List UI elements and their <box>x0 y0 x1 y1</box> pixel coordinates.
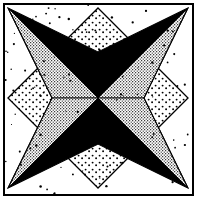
speckle-dot <box>99 75 101 77</box>
speckle-dot <box>96 81 97 82</box>
speckle-dot <box>147 163 148 164</box>
speckle-dot <box>68 18 70 20</box>
speckle-dot <box>145 46 147 48</box>
speckle-dot <box>184 84 186 86</box>
speckle-dot <box>126 64 128 66</box>
speckle-dot <box>184 144 186 146</box>
speckle-dot <box>31 89 33 91</box>
speckle-dot <box>111 16 113 18</box>
speckle-dot <box>46 189 48 191</box>
speckle-dot <box>174 147 176 149</box>
speckle-dot <box>98 49 100 51</box>
speckle-dot <box>93 112 95 114</box>
speckle-dot <box>49 22 51 24</box>
speckle-dot <box>142 32 144 34</box>
speckle-dot <box>50 153 52 155</box>
speckle-dot <box>54 56 55 57</box>
star-quilt-illustration <box>0 0 197 200</box>
speckle-dot <box>138 39 140 41</box>
speckle-dot <box>68 73 70 75</box>
speckle-dot <box>65 110 66 111</box>
speckle-dot <box>53 193 55 195</box>
speckle-dot <box>173 139 175 141</box>
speckle-dot <box>116 99 118 101</box>
speckle-dot <box>152 96 153 97</box>
speckle-dot <box>29 18 31 20</box>
speckle-dot <box>78 45 80 47</box>
speckle-dot <box>138 67 139 68</box>
speckle-dot <box>39 134 41 136</box>
speckle-dot <box>167 29 169 31</box>
speckle-dot <box>145 10 147 12</box>
speckle-dot <box>173 16 175 18</box>
speckle-dot <box>121 162 123 164</box>
speckle-dot <box>155 39 156 40</box>
speckle-dot <box>69 80 71 82</box>
speckle-dot <box>122 76 124 78</box>
speckle-dot <box>48 7 50 9</box>
speckle-dot <box>24 70 26 72</box>
speckle-dot <box>19 151 21 153</box>
speckle-dot <box>79 137 81 139</box>
figure-root <box>0 0 197 200</box>
speckle-dot <box>54 8 55 9</box>
speckle-dot <box>82 170 83 171</box>
speckle-dot <box>79 130 81 132</box>
speckle-dot <box>163 44 165 46</box>
speckle-dot <box>43 74 45 76</box>
speckle-dot <box>108 113 110 115</box>
speckle-dot <box>151 61 153 63</box>
speckle-dot <box>5 50 7 52</box>
speckle-dot <box>173 53 175 55</box>
speckle-dot <box>107 126 109 128</box>
speckle-dot <box>187 134 189 136</box>
speckle-dot <box>20 164 22 166</box>
speckle-dot <box>106 165 108 167</box>
speckle-dot <box>89 72 91 74</box>
speckle-dot <box>134 157 136 159</box>
speckle-dot <box>72 173 74 175</box>
speckle-dot <box>94 29 96 31</box>
speckle-dot <box>124 62 126 64</box>
speckle-dot <box>43 91 44 92</box>
speckle-dot <box>10 68 12 70</box>
speckle-dot <box>145 93 146 94</box>
speckle-dot <box>87 4 89 6</box>
speckle-dot <box>117 64 119 66</box>
speckle-dot <box>151 136 153 138</box>
speckle-dot <box>122 95 123 96</box>
speckle-dot <box>63 77 64 78</box>
speckle-dot <box>39 185 42 188</box>
speckle-dot <box>103 51 105 53</box>
speckle-dot <box>172 30 174 32</box>
speckle-dot <box>132 21 134 23</box>
speckle-dot <box>58 16 60 18</box>
speckle-dot <box>29 147 31 149</box>
speckle-dot <box>7 51 8 52</box>
speckle-dot <box>161 169 163 171</box>
speckle-dot <box>176 85 178 87</box>
speckle-dot <box>11 124 12 125</box>
speckle-dot <box>35 144 38 147</box>
speckle-dot <box>5 79 7 81</box>
speckle-dot <box>35 16 37 18</box>
speckle-dot <box>42 161 44 163</box>
speckle-dot <box>102 87 104 89</box>
speckle-dot <box>120 93 122 95</box>
speckle-dot <box>110 71 112 73</box>
speckle-dot <box>32 19 33 20</box>
speckle-dot <box>105 185 107 187</box>
speckle-dot <box>86 31 88 33</box>
speckle-dot <box>152 27 153 28</box>
speckle-dot <box>167 62 169 64</box>
speckle-dot <box>43 60 45 62</box>
speckle-dot <box>15 114 16 115</box>
speckle-dot <box>103 54 104 55</box>
speckle-dot <box>137 94 139 96</box>
speckle-dot <box>79 139 81 141</box>
speckle-dot <box>72 29 73 30</box>
speckle-dot <box>153 133 155 135</box>
speckle-dot <box>77 111 79 113</box>
speckle-dot <box>60 167 61 168</box>
speckle-dot <box>84 174 86 176</box>
